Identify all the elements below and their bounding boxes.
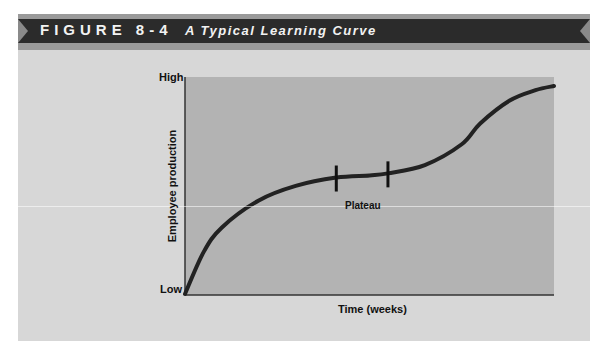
scan-artifact-line bbox=[0, 206, 600, 207]
y-tick-high: High bbox=[159, 71, 183, 83]
learning-curve-chart bbox=[0, 0, 600, 356]
x-axis-label: Time (weeks) bbox=[338, 303, 407, 315]
y-tick-low: Low bbox=[160, 283, 182, 295]
plateau-label: Plateau bbox=[345, 200, 381, 211]
y-axis-label: Employee production bbox=[166, 126, 178, 246]
